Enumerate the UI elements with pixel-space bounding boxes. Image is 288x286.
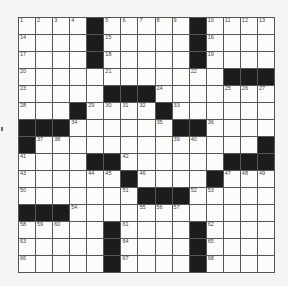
grid-cell[interactable]: [156, 35, 172, 51]
grid-cell[interactable]: [36, 171, 52, 187]
grid-cell[interactable]: [258, 120, 274, 136]
grid-cell[interactable]: [156, 171, 172, 187]
grid-cell[interactable]: [53, 188, 69, 204]
grid-cell[interactable]: [241, 120, 257, 136]
grid-cell[interactable]: 20: [19, 69, 35, 85]
grid-cell[interactable]: 34: [70, 120, 86, 136]
grid-cell[interactable]: 17: [19, 52, 35, 68]
grid-cell[interactable]: [138, 154, 154, 170]
grid-cell[interactable]: [87, 239, 103, 255]
grid-cell[interactable]: 39: [173, 137, 189, 153]
grid-cell[interactable]: [53, 52, 69, 68]
grid-cell[interactable]: 27: [258, 86, 274, 102]
grid-cell[interactable]: [87, 69, 103, 85]
grid-cell[interactable]: [156, 239, 172, 255]
grid-cell[interactable]: [156, 69, 172, 85]
grid-cell[interactable]: [190, 171, 206, 187]
grid-cell[interactable]: 4: [70, 18, 86, 34]
grid-cell[interactable]: 29: [87, 103, 103, 119]
grid-cell[interactable]: [138, 120, 154, 136]
grid-cell[interactable]: [70, 239, 86, 255]
grid-cell[interactable]: [36, 52, 52, 68]
grid-cell[interactable]: 61: [121, 222, 137, 238]
grid-cell[interactable]: [224, 137, 240, 153]
grid-cell[interactable]: [70, 188, 86, 204]
grid-cell[interactable]: 44: [87, 171, 103, 187]
grid-cell[interactable]: 64: [121, 239, 137, 255]
grid-cell[interactable]: 63: [19, 239, 35, 255]
grid-cell[interactable]: [173, 154, 189, 170]
grid-cell[interactable]: [258, 205, 274, 221]
grid-cell[interactable]: 59: [36, 222, 52, 238]
grid-cell[interactable]: [241, 188, 257, 204]
grid-cell[interactable]: 25: [224, 86, 240, 102]
grid-cell[interactable]: [224, 52, 240, 68]
grid-cell[interactable]: [70, 154, 86, 170]
grid-cell[interactable]: [104, 137, 120, 153]
grid-cell[interactable]: 47: [224, 171, 240, 187]
grid-cell[interactable]: [87, 86, 103, 102]
grid-cell[interactable]: [173, 86, 189, 102]
grid-cell[interactable]: [87, 256, 103, 272]
grid-cell[interactable]: [258, 188, 274, 204]
grid-cell[interactable]: [121, 120, 137, 136]
grid-cell[interactable]: [241, 205, 257, 221]
grid-cell[interactable]: 18: [104, 52, 120, 68]
grid-cell[interactable]: [104, 205, 120, 221]
grid-cell[interactable]: [70, 222, 86, 238]
grid-cell[interactable]: [258, 35, 274, 51]
grid-cell[interactable]: [241, 52, 257, 68]
grid-cell[interactable]: 31: [121, 103, 137, 119]
grid-cell[interactable]: [87, 222, 103, 238]
grid-cell[interactable]: [121, 205, 137, 221]
grid-cell[interactable]: [207, 154, 223, 170]
grid-cell[interactable]: [138, 69, 154, 85]
grid-cell[interactable]: [258, 52, 274, 68]
grid-cell[interactable]: [138, 35, 154, 51]
grid-cell[interactable]: 14: [19, 35, 35, 51]
grid-cell[interactable]: [138, 222, 154, 238]
grid-cell[interactable]: [190, 103, 206, 119]
grid-cell[interactable]: [70, 35, 86, 51]
grid-cell[interactable]: [53, 239, 69, 255]
grid-cell[interactable]: [241, 103, 257, 119]
grid-cell[interactable]: [138, 239, 154, 255]
grid-cell[interactable]: [207, 137, 223, 153]
grid-cell[interactable]: 32: [138, 103, 154, 119]
grid-cell[interactable]: 46: [138, 171, 154, 187]
grid-cell[interactable]: 52: [190, 188, 206, 204]
grid-cell[interactable]: 7: [138, 18, 154, 34]
grid-cell[interactable]: 22: [190, 69, 206, 85]
grid-cell[interactable]: [258, 256, 274, 272]
grid-cell[interactable]: [104, 120, 120, 136]
grid-cell[interactable]: [70, 52, 86, 68]
grid-cell[interactable]: [121, 69, 137, 85]
grid-cell[interactable]: [87, 120, 103, 136]
grid-cell[interactable]: [156, 256, 172, 272]
grid-cell[interactable]: [241, 256, 257, 272]
grid-cell[interactable]: [258, 103, 274, 119]
grid-cell[interactable]: 42: [121, 154, 137, 170]
grid-cell[interactable]: 38: [53, 137, 69, 153]
grid-cell[interactable]: [70, 256, 86, 272]
grid-cell[interactable]: [36, 239, 52, 255]
grid-cell[interactable]: 62: [207, 222, 223, 238]
grid-cell[interactable]: [70, 69, 86, 85]
grid-cell[interactable]: [241, 222, 257, 238]
grid-cell[interactable]: 13: [258, 18, 274, 34]
grid-cell[interactable]: [173, 69, 189, 85]
grid-cell[interactable]: [207, 69, 223, 85]
grid-cell[interactable]: 11: [224, 18, 240, 34]
grid-cell[interactable]: 43: [19, 171, 35, 187]
grid-cell[interactable]: [258, 239, 274, 255]
grid-cell[interactable]: 16: [207, 35, 223, 51]
grid-cell[interactable]: [190, 154, 206, 170]
grid-cell[interactable]: 19: [207, 52, 223, 68]
grid-cell[interactable]: [241, 137, 257, 153]
grid-cell[interactable]: 36: [207, 120, 223, 136]
grid-cell[interactable]: 33: [173, 103, 189, 119]
grid-cell[interactable]: 60: [53, 222, 69, 238]
grid-cell[interactable]: 30: [104, 103, 120, 119]
grid-cell[interactable]: [36, 69, 52, 85]
grid-cell[interactable]: [224, 120, 240, 136]
